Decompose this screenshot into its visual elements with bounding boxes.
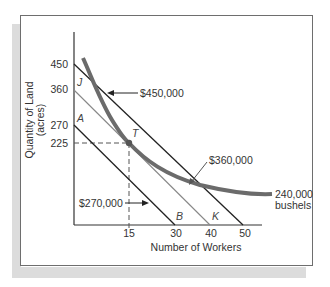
y-tick-270: 270 — [50, 119, 68, 131]
chart-plot: 450 360 270 225 15 30 40 50 Number of Wo… — [0, 0, 330, 287]
point-k-label: K — [212, 210, 220, 222]
y-axis-unit: (acres) — [34, 104, 46, 137]
cost-360000-label: $360,000 — [209, 154, 253, 166]
x-tick-30: 30 — [170, 227, 182, 239]
cost-450000-label: $450,000 — [140, 87, 184, 99]
y-tick-225: 225 — [50, 137, 68, 149]
isoquant-unit-label: bushels — [275, 199, 311, 211]
point-t-marker — [126, 140, 132, 146]
point-b-label: B — [176, 210, 183, 222]
isoquant-curve — [83, 58, 272, 194]
cost-360000-leader — [192, 162, 207, 181]
x-tick-50: 50 — [239, 227, 251, 239]
y-tick-450: 450 — [50, 58, 68, 70]
point-a-label: A — [76, 112, 84, 124]
point-t-label: T — [132, 127, 140, 139]
y-tick-360: 360 — [50, 83, 68, 95]
arrow-left-icon — [107, 90, 114, 96]
cost-270000-label: $270,000 — [79, 197, 123, 209]
point-j-label: J — [76, 76, 83, 88]
x-tick-40: 40 — [205, 227, 217, 239]
x-axis-title: Number of Workers — [151, 241, 242, 253]
arrow-right-icon — [142, 200, 149, 206]
x-tick-15: 15 — [123, 227, 135, 239]
